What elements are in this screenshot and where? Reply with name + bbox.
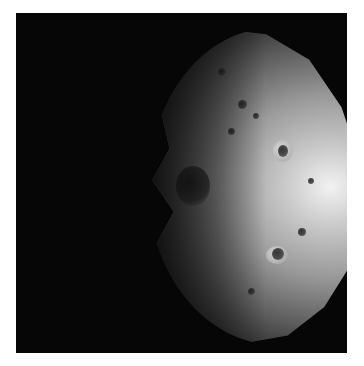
- crater: [272, 248, 284, 260]
- crater: [298, 228, 306, 236]
- photo-frame: [16, 13, 347, 353]
- terminator-shadow: [148, 28, 266, 345]
- crater: [308, 178, 314, 184]
- asteroid-body: [148, 28, 347, 345]
- crater: [278, 145, 288, 157]
